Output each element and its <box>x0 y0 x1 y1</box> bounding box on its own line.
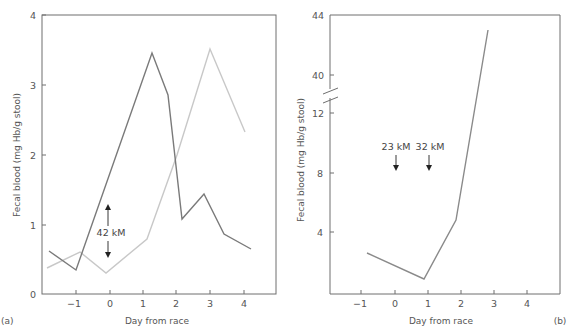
x-tick-label: 4 <box>524 298 530 309</box>
arrow-up-icon <box>105 204 111 210</box>
chart-a: 4 3 2 1 0 Fecal blood (mg Hb/g stool) −1… <box>1 10 276 326</box>
x-tick-label: 1 <box>140 298 146 309</box>
chart-b-y-axis: 44 40 12 8 4 Fecal blood (mg Hb/g stool) <box>296 10 334 238</box>
x-tick-label: 2 <box>173 298 179 309</box>
arrow-down-icon <box>105 252 111 258</box>
y-tick-label: 4 <box>317 227 323 238</box>
chart-a-frame <box>42 15 276 294</box>
y-tick-label: 8 <box>317 168 323 179</box>
x-tick-label: 4 <box>241 298 247 309</box>
series-dark-line <box>49 53 251 270</box>
series-line <box>367 30 488 279</box>
chart-a-y-label: Fecal blood (mg Hb/g stool) <box>12 93 22 217</box>
y-tick-label: 3 <box>30 80 36 91</box>
panel-label-a: (a) <box>1 316 14 326</box>
x-tick-label: −1 <box>67 298 81 309</box>
annotation-42km: 42 kM <box>97 204 126 258</box>
arrow-down-icon <box>393 165 399 171</box>
y-tick-label: 0 <box>30 289 36 300</box>
x-tick-label: 3 <box>491 298 497 309</box>
x-tick-label: 0 <box>107 298 113 309</box>
y-tick-label: 1 <box>30 220 36 231</box>
annotation-32km-label: 32 kM <box>416 141 445 152</box>
annotation-32km: 32 kM <box>416 141 445 171</box>
y-tick-label: 2 <box>30 150 36 161</box>
chart-b: 44 40 12 8 4 Fecal blood (mg Hb/g stool)… <box>296 10 566 326</box>
chart-a-y-axis: 4 3 2 1 0 Fecal blood (mg Hb/g stool) <box>12 10 46 300</box>
x-tick-label: 2 <box>458 298 464 309</box>
panel-label-b: (b) <box>554 316 567 326</box>
chart-a-x-label: Day from race <box>125 316 190 326</box>
y-tick-label: 40 <box>312 70 324 81</box>
series-light-line <box>47 49 245 273</box>
annotation-23km: 23 kM <box>382 141 411 171</box>
x-tick-label: 3 <box>207 298 213 309</box>
figure: 4 3 2 1 0 Fecal blood (mg Hb/g stool) −1… <box>0 0 577 336</box>
annotation-42km-label: 42 kM <box>97 227 126 238</box>
y-tick-label: 44 <box>312 10 324 21</box>
chart-b-x-label: Day from race <box>409 316 474 326</box>
x-tick-label: 0 <box>392 298 398 309</box>
chart-b-y-label: Fecal blood (mg Hb/g stool) <box>296 98 306 222</box>
y-tick-label: 12 <box>312 108 324 119</box>
annotation-23km-label: 23 kM <box>382 141 411 152</box>
arrow-down-icon <box>426 165 432 171</box>
x-tick-label: −1 <box>353 298 367 309</box>
x-tick-label: 1 <box>425 298 431 309</box>
chart-b-x-axis: −1 0 1 2 3 4 Day from race <box>353 290 530 326</box>
chart-a-x-axis: −1 0 1 2 3 4 Day from race <box>67 290 247 326</box>
y-tick-label: 4 <box>30 10 36 21</box>
